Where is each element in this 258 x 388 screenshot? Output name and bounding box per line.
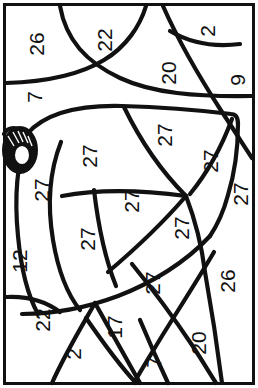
region-number-27: 27 — [199, 149, 222, 172]
region-number-27: 27 — [229, 182, 252, 205]
coloring-page-canvas: 262222097272727272727272727122622172720 — [0, 0, 258, 388]
region-number-26: 26 — [25, 32, 48, 55]
region-number-2: 2 — [62, 348, 85, 360]
region-number-7: 7 — [23, 91, 46, 103]
region-number-2: 2 — [196, 25, 219, 37]
region-number-7: 7 — [142, 356, 165, 368]
region-number-27: 27 — [170, 216, 193, 239]
region-number-9: 9 — [226, 74, 249, 86]
handle-loop-hole — [14, 145, 30, 165]
region-number-27: 27 — [76, 227, 99, 250]
region-number-26: 26 — [216, 269, 239, 292]
region-number-27: 27 — [120, 189, 143, 212]
region-number-27: 27 — [30, 178, 53, 201]
region-number-17: 17 — [103, 315, 126, 338]
region-number-20: 20 — [187, 331, 210, 354]
region-number-27: 27 — [141, 271, 164, 294]
region-number-27: 27 — [153, 123, 176, 146]
region-number-12: 12 — [8, 249, 31, 272]
region-number-20: 20 — [157, 61, 180, 84]
region-number-22: 22 — [31, 308, 54, 331]
region-number-22: 22 — [93, 28, 116, 51]
bell-handle-loop — [3, 127, 37, 173]
bell-color-by-number-artwork: 262222097272727272727272727122622172720 — [0, 0, 258, 388]
region-number-27: 27 — [78, 144, 101, 167]
